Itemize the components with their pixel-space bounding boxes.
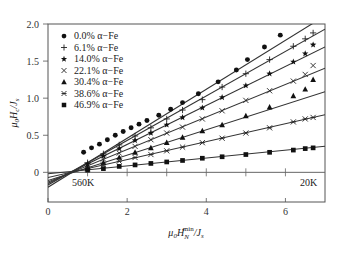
star-marker-icon [164, 121, 170, 127]
asterisk-marker-icon [267, 125, 272, 130]
legend-item: 22.1% α−Fe [62, 65, 124, 76]
asterisk-marker-icon [220, 136, 225, 141]
scatter-chart: 024600.51.01.52.0μ0HNmin/Jsμ0Hc/Js 0.0% … [0, 0, 341, 253]
star-marker-icon [179, 114, 185, 120]
circle-marker-icon [234, 68, 239, 73]
x-marker-icon [62, 68, 67, 73]
circle-marker-icon [278, 33, 283, 38]
legend-label: 46.9% α−Fe [74, 99, 124, 110]
y-axis-label: μ0Hc/Js [8, 98, 21, 128]
plus-marker-icon [61, 45, 67, 51]
axes: 024600.51.01.52.0μ0HNmin/Jsμ0Hc/Js [8, 19, 288, 242]
y-tick-label: 1.0 [27, 93, 40, 104]
triangle-marker-icon [310, 77, 316, 82]
legend-item: 6.1% α−Fe [61, 42, 119, 53]
square-marker-icon [303, 146, 308, 151]
x-tick-label: 2 [125, 206, 130, 217]
y-tick-label: 2.0 [27, 19, 40, 30]
triangle-marker-icon [243, 113, 249, 118]
annotations: 560K20K [72, 177, 318, 188]
asterisk-marker-icon [148, 152, 153, 157]
star-marker-icon [61, 56, 67, 62]
square-marker-icon [117, 164, 122, 169]
circle-marker-icon [156, 113, 161, 118]
circle-marker-icon [262, 45, 267, 50]
circle-marker-icon [62, 34, 67, 39]
y-tick-label: 1.5 [27, 56, 40, 67]
asterisk-marker-icon [180, 145, 185, 150]
triangle-marker-icon [267, 104, 273, 109]
plus-marker-icon [243, 71, 249, 77]
legend-label: 14.0% α−Fe [74, 53, 124, 64]
triangle-marker-icon [61, 79, 67, 84]
circle-marker-icon [137, 122, 142, 127]
triangle-marker-icon [148, 145, 154, 150]
star-marker-icon [148, 130, 154, 136]
star-marker-icon [199, 104, 205, 110]
square-marker-icon [244, 152, 249, 157]
asterisk-marker-icon [200, 140, 205, 145]
asterisk-marker-icon [164, 148, 169, 153]
circle-marker-icon [89, 145, 94, 150]
square-marker-icon [220, 154, 225, 159]
legend-label: 0.0% α−Fe [74, 30, 119, 41]
circle-marker-icon [180, 100, 185, 105]
legend-label: 38.6% α−Fe [74, 88, 124, 99]
square-marker-icon [267, 150, 272, 155]
legend-item: 0.0% α−Fe [62, 30, 119, 41]
x-tick-label: 6 [283, 206, 288, 217]
asterisk-marker-icon [291, 119, 296, 124]
legend-label: 22.1% α−Fe [74, 65, 124, 76]
square-marker-icon [311, 146, 316, 151]
x-marker-icon [311, 63, 316, 68]
x-axis-label: μ0HNmin/Js [167, 225, 204, 241]
circle-marker-icon [245, 57, 250, 62]
square-marker-icon [62, 103, 67, 108]
x-marker-icon [132, 144, 137, 149]
annotation-20k: 20K [300, 177, 318, 188]
plus-marker-icon [219, 84, 225, 90]
legend-label: 6.1% α−Fe [74, 42, 119, 53]
triangle-marker-icon [302, 86, 308, 91]
legend-item: 46.9% α−Fe [62, 99, 124, 110]
circle-marker-icon [144, 118, 149, 123]
circle-marker-icon [196, 91, 201, 96]
triangle-marker-icon [290, 93, 296, 98]
asterisk-marker-icon [303, 116, 308, 121]
square-marker-icon [85, 168, 90, 173]
x-tick-label: 0 [46, 206, 51, 217]
square-marker-icon [133, 163, 138, 168]
square-marker-icon [200, 156, 205, 161]
circle-marker-icon [113, 133, 118, 138]
circle-marker-icon [121, 129, 126, 134]
annotation-560k: 560K [72, 177, 95, 188]
legend-item: 30.4% α−Fe [61, 76, 124, 87]
legend-item: 38.6% α−Fe [62, 88, 124, 99]
asterisk-marker-icon [62, 91, 67, 96]
square-marker-icon [149, 161, 154, 166]
square-marker-icon [291, 148, 296, 153]
x-marker-icon [148, 137, 153, 142]
legend: 0.0% α−Fe6.1% α−Fe14.0% α−Fe22.1% α−Fe30… [61, 30, 124, 110]
y-tick-label: 0 [34, 167, 39, 178]
asterisk-marker-icon [243, 130, 248, 135]
square-marker-icon [180, 158, 185, 163]
circle-marker-icon [81, 150, 86, 155]
star-marker-icon [310, 41, 316, 47]
circle-marker-icon [168, 107, 173, 112]
circle-marker-icon [216, 79, 221, 84]
legend-item: 14.0% α−Fe [61, 53, 124, 64]
square-marker-icon [164, 160, 169, 165]
circle-marker-icon [105, 137, 110, 142]
asterisk-marker-icon [132, 155, 137, 160]
square-marker-icon [101, 166, 106, 171]
y-tick-label: 0.5 [27, 130, 40, 141]
circle-marker-icon [129, 125, 134, 130]
legend-label: 30.4% α−Fe [74, 76, 124, 87]
asterisk-marker-icon [311, 115, 316, 120]
x-tick-label: 4 [204, 206, 209, 217]
circle-marker-icon [97, 142, 102, 147]
